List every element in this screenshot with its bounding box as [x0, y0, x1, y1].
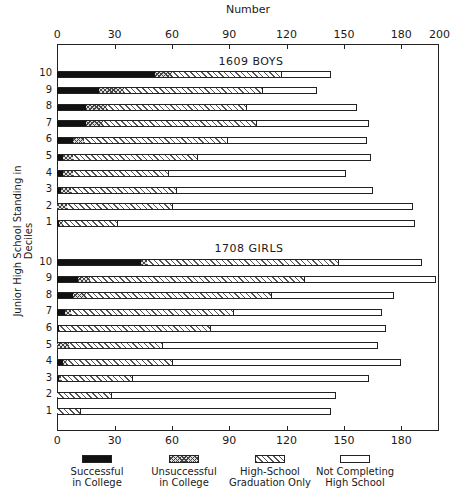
segment-h [107, 104, 247, 111]
segment-h [90, 276, 304, 283]
decile-label: 9 [36, 272, 52, 283]
girls-group-title: 1708 GIRLS [214, 242, 283, 255]
segment-s [57, 104, 86, 111]
segment-s [57, 309, 65, 316]
segment-h [57, 408, 80, 415]
segment-h [69, 342, 163, 349]
legend-swatch-h [255, 455, 285, 463]
segment-h [124, 87, 262, 94]
legend-label: High-School Graduation Only [229, 466, 311, 488]
decile-label: 6 [36, 322, 52, 333]
segment-s [57, 292, 72, 299]
segment-u [61, 187, 71, 194]
tick-label: 0 [54, 434, 61, 447]
segment-h [147, 259, 338, 266]
tick-label: 180 [391, 434, 412, 447]
segment-h [103, 120, 256, 127]
tick-mark [401, 426, 402, 431]
tick-label: 30 [108, 434, 122, 447]
segment-h [84, 137, 227, 144]
bar-boys-decile-7 [57, 120, 368, 127]
tick-label: 60 [165, 28, 179, 41]
legend-label: Successful in College [71, 466, 124, 488]
decile-label: 10 [36, 256, 52, 267]
decile-label: 4 [36, 355, 52, 366]
segment-n [233, 309, 382, 316]
y-axis-title: Junior High School Standing in Deciles [12, 156, 34, 326]
segment-u [73, 137, 84, 144]
bar-boys-decile-3 [57, 187, 372, 194]
segment-n [338, 259, 422, 266]
bar-girls-decile-1 [57, 408, 330, 415]
bar-girls-decile-9 [57, 276, 435, 283]
bar-girls-decile-7 [57, 309, 382, 316]
decile-label: 10 [36, 67, 52, 78]
bar-boys-decile-6 [57, 137, 367, 144]
decile-label: 1 [36, 405, 52, 416]
decile-label: 4 [36, 167, 52, 178]
segment-n [197, 154, 371, 161]
segment-u [57, 342, 68, 349]
tick-label: 30 [108, 28, 122, 41]
tick-mark [229, 426, 230, 431]
segment-h [73, 154, 197, 161]
bar-boys-decile-2 [57, 203, 412, 210]
decile-label: 5 [36, 150, 52, 161]
segment-n [111, 392, 336, 399]
tick-mark [344, 426, 345, 431]
bar-boys-decile-5 [57, 154, 370, 161]
bar-girls-decile-2 [57, 392, 336, 399]
segment-h [172, 71, 281, 78]
bar-girls-decile-6 [57, 325, 386, 332]
tick-mark [287, 426, 288, 431]
legend-swatch-s [82, 455, 112, 463]
bar-girls-decile-10 [57, 259, 422, 266]
segment-n [210, 325, 386, 332]
segment-s [57, 71, 154, 78]
segment-n [271, 292, 393, 299]
segment-n [168, 170, 346, 177]
segment-s [57, 120, 86, 127]
segment-h [67, 203, 172, 210]
bar-boys-decile-9 [57, 87, 317, 94]
decile-label: 2 [36, 388, 52, 399]
boys-group-title: 1609 BOYS [218, 55, 283, 68]
decile-label: 9 [36, 84, 52, 95]
bar-girls-decile-8 [57, 292, 393, 299]
decile-label: 8 [36, 289, 52, 300]
segment-n [162, 342, 378, 349]
decile-label: 6 [36, 133, 52, 144]
legend-label: Unsuccessful in College [151, 466, 216, 488]
tick-label: 120 [276, 28, 297, 41]
segment-s [57, 87, 99, 94]
segment-u [57, 203, 67, 210]
segment-n [132, 375, 369, 382]
segment-n [176, 187, 373, 194]
tick-mark [172, 426, 173, 431]
segment-n [172, 203, 413, 210]
x-axis-title: Number [226, 3, 270, 16]
tick-label: 120 [276, 434, 297, 447]
tick-label: 200 [429, 28, 450, 41]
decile-label: 8 [36, 100, 52, 111]
segment-u [86, 120, 103, 127]
segment-h [71, 187, 176, 194]
segment-u [155, 71, 172, 78]
segment-u [78, 276, 89, 283]
segment-n [117, 220, 415, 227]
segment-n [227, 137, 367, 144]
segment-n [172, 359, 401, 366]
segment-h [61, 375, 132, 382]
decile-label: 3 [36, 372, 52, 383]
decile-label: 3 [36, 183, 52, 194]
segment-u [86, 104, 107, 111]
segment-u [63, 154, 73, 161]
segment-s [57, 137, 72, 144]
tick-label: 90 [222, 28, 236, 41]
bar-boys-decile-8 [57, 104, 357, 111]
plot-frame [57, 44, 439, 431]
tick-label: 0 [54, 28, 61, 41]
tick-label: 90 [222, 434, 236, 447]
decile-label: 1 [36, 216, 52, 227]
decile-label: 5 [36, 339, 52, 350]
